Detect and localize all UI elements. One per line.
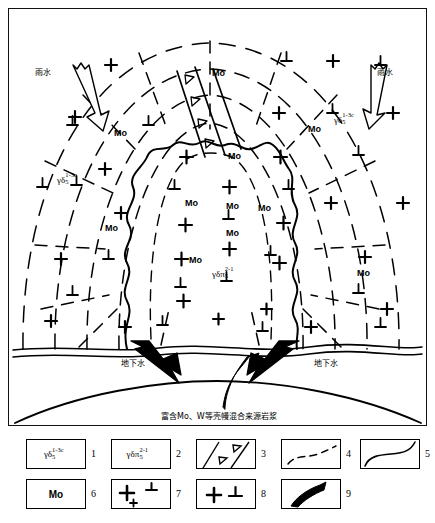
mo-label: Mo [105, 224, 118, 233]
legend-swatch-granodiorite-porphyry: γδπ2-15 [111, 439, 171, 469]
groundwater-label-right: 地下水 [314, 360, 338, 368]
rainwater-label-left: 雨水 [35, 69, 51, 77]
legend-swatch-granodiorite: γδ1-3c5 [26, 439, 86, 469]
mo-label: Mo [258, 204, 271, 213]
legend-symbol-text: γδπ2-15 [127, 449, 156, 459]
mo-label: Mo [226, 229, 239, 238]
legend-swatch-dense-crystals [196, 479, 256, 509]
mo-label: Mo [228, 152, 241, 161]
legend-row-2: Mo 6 7 [8, 478, 427, 512]
mo-label: Mo [114, 129, 127, 138]
legend-row-1: γδ1-3c5 1 γδπ2-15 2 [8, 438, 427, 472]
legend-number: 9 [346, 489, 351, 499]
legend-swatch-dashed-contour [281, 439, 341, 469]
rock-unit-label-center: γδπ2-15 [212, 270, 242, 280]
legend-swatch-sparse-crystals [111, 479, 171, 509]
legend-item-5: 5 [360, 438, 430, 470]
dike-icon [197, 440, 256, 469]
figure-root: 雨水 雨水 地下水 地下水 富含Mo、W等壳幔混合来源岩浆 γδ1-3c5 γδ… [0, 0, 435, 523]
legend-swatch-dike [196, 439, 256, 469]
legend-number: 4 [346, 449, 351, 459]
legend-number: 2 [176, 449, 181, 459]
legend-item-9: 9 [281, 478, 351, 510]
legend-swatch-mo: Mo [26, 479, 86, 509]
rainwater-label-right: 雨水 [377, 69, 393, 77]
fluid-arrow-icon [282, 480, 341, 509]
mo-label: Mo [308, 125, 321, 134]
legend-item-3: 3 [196, 438, 266, 470]
legend-swatch-contact-curve [360, 439, 420, 469]
legend-item-7: 7 [111, 478, 181, 510]
mo-label: Mo [226, 202, 239, 211]
rock-unit-label-right: γδ1-3c5 [334, 116, 359, 126]
legend-item-1: γδ1-3c5 1 [26, 438, 96, 470]
alteration-halo-2 [55, 69, 367, 349]
legend-number: 5 [425, 449, 430, 459]
legend: γδ1-3c5 1 γδπ2-15 2 [8, 434, 427, 516]
ground-surface [13, 345, 422, 357]
alteration-halo-inner [150, 153, 271, 339]
legend-number: 1 [91, 449, 96, 459]
legend-item-4: 4 [281, 438, 351, 470]
dense-crystal-icon [197, 480, 256, 509]
mo-label: Mo [357, 269, 370, 278]
legend-swatch-fluid-arrow [281, 479, 341, 509]
legend-item-6: Mo 6 [26, 478, 96, 510]
legend-number: 3 [261, 449, 266, 459]
legend-symbol-text: γδ1-3c5 [44, 449, 68, 459]
mo-label: Mo [189, 256, 202, 265]
contact-curve-icon [361, 440, 420, 469]
legend-item-2: γδπ2-15 2 [111, 438, 181, 470]
alteration-halo-outer [23, 43, 399, 349]
legend-number: 8 [261, 489, 266, 499]
legend-number: 6 [91, 489, 96, 499]
legend-number: 7 [176, 489, 181, 499]
rainwater-arrow-left [73, 63, 109, 131]
legend-mo-text: Mo [49, 489, 63, 500]
mo-label: Mo [212, 69, 225, 78]
legend-item-8: 8 [196, 478, 266, 510]
sparse-crystal-icon [112, 480, 171, 509]
diagram-frame: 雨水 雨水 地下水 地下水 富含Mo、W等壳幔混合来源岩浆 γδ1-3c5 γδ… [8, 8, 427, 426]
magma-source-label: 富含Mo、W等壳幔混合来源岩浆 [161, 413, 277, 421]
mo-label: Mo [185, 199, 198, 208]
rock-unit-label-left: γδ1-3c5 [57, 176, 82, 186]
groundwater-label-left: 地下水 [121, 360, 145, 368]
dashed-contour-icon [282, 440, 341, 469]
